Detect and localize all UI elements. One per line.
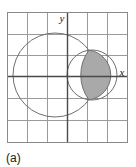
figure-caption: (a) [6, 151, 21, 165]
figure-container: y x (a) [0, 0, 136, 167]
x-axis-label: x [119, 66, 125, 78]
y-axis-label: y [59, 12, 65, 24]
intersecting-circles-diagram: y x (a) [0, 0, 136, 167]
